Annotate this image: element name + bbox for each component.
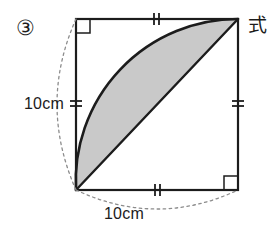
- formula-label: 式: [248, 16, 267, 35]
- right-angle-mark-top-left: [76, 19, 90, 33]
- problem-number-text: ③: [10, 13, 40, 43]
- right-angle-mark-bottom-right: [224, 176, 238, 190]
- side-length-label-left: 10cm: [24, 96, 64, 112]
- dotted-guide-arc-bottom: [76, 190, 238, 209]
- geometry-figure-panel: ③ 10cm 10cm 式: [0, 0, 276, 232]
- side-length-label-bottom: 10cm: [104, 206, 144, 222]
- problem-number-label: ③: [10, 13, 40, 43]
- geometry-diagram: [0, 0, 276, 232]
